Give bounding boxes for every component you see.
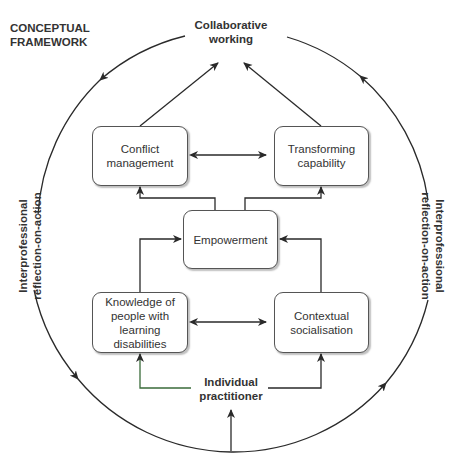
collaborative-working-label: Collaborative working bbox=[181, 18, 281, 46]
arrow-transform-to-collab bbox=[244, 63, 321, 126]
arrow-contextual-to-empower bbox=[280, 239, 321, 292]
contextual-socialisation-box: Contextual socialisation bbox=[274, 292, 369, 353]
arrow-empower-to-transform bbox=[245, 187, 321, 210]
individual-practitioner-label: Individual practitioner bbox=[181, 375, 281, 403]
arc-top-right bbox=[360, 76, 428, 200]
empowerment-box: Empowerment bbox=[183, 210, 278, 269]
transforming-capability-box: Transforming capability bbox=[274, 126, 369, 186]
arrow-empower-to-conflict bbox=[140, 187, 215, 210]
knowledge-box: Knowledge of people with learning disabi… bbox=[92, 292, 188, 353]
arc-top-left bbox=[100, 36, 185, 80]
framework-title: CONCEPTUAL FRAMEWORK bbox=[10, 21, 90, 49]
conflict-management-box: Conflict management bbox=[92, 126, 188, 186]
arrow-conflict-to-collab bbox=[140, 63, 218, 126]
right-reflection-label: Interprofessional reflection-on-action bbox=[419, 176, 447, 316]
arrow-knowledge-to-empower bbox=[140, 239, 181, 292]
left-reflection-label: Interprofessional reflection-on-action bbox=[16, 176, 44, 316]
